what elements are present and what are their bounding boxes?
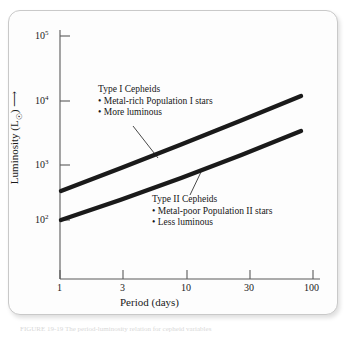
y-tick-exp-1e4: 4 — [45, 94, 49, 102]
x-tick-label-30: 30 — [244, 282, 254, 293]
y-tick-exp-1e3: 3 — [45, 158, 49, 166]
annotation-type-i: Type I Cepheids • Metal-rich Population … — [98, 84, 213, 119]
annotation-type-i-bullet-0: • Metal-rich Population I stars — [98, 96, 213, 108]
y-tick-exp-1e5: 5 — [45, 29, 49, 37]
solar-symbol-icon: ☉ — [15, 113, 24, 120]
annotation-type-i-heading: Type I Cepheids — [98, 84, 213, 96]
x-tick-label-3: 3 — [120, 282, 125, 293]
annotation-type-ii-bullet-1: • Less luminous — [152, 217, 272, 229]
x-tick-label-100: 100 — [304, 282, 319, 293]
annotation-type-ii: Type II Cepheids • Metal-poor Population… — [152, 194, 272, 229]
figure-container: 105 104 103 102 1 3 10 30 100 Luminosity… — [0, 0, 345, 338]
y-tick-label-1e4: 104 — [35, 94, 49, 106]
y-tick-label-1e2: 102 — [35, 213, 49, 225]
x-tick-label-1: 1 — [57, 282, 62, 293]
x-axis-label: Period (days) — [120, 296, 179, 308]
annotation-type-ii-bullet-0: • Metal-poor Population II stars — [152, 206, 272, 218]
y-tick-exp-1e2: 2 — [45, 213, 49, 221]
chart-plot-area — [0, 0, 345, 338]
y-tick-label-1e5: 105 — [35, 29, 49, 41]
annotation-type-ii-heading: Type II Cepheids — [152, 194, 272, 206]
figure-caption: FIGURE 19-19 The period-luminosity relat… — [20, 325, 330, 333]
y-tick-label-1e3: 103 — [35, 158, 49, 170]
y-axis-label: Luminosity (L☉) ⟶ — [8, 78, 23, 198]
x-tick-label-10: 10 — [181, 282, 191, 293]
annotation-type-i-bullet-1: • More luminous — [98, 107, 213, 119]
